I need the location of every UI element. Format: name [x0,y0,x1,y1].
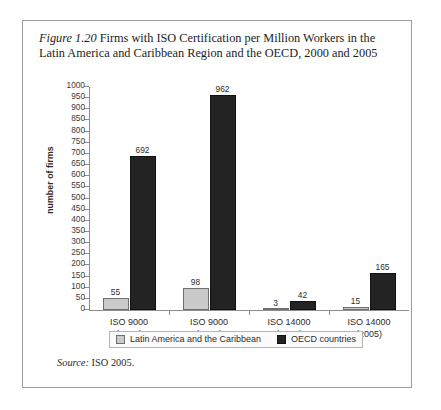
bar [130,156,156,310]
y-tick: 950 [89,97,90,98]
figure-caption: Figure 1.20 Firms with ISO Certification… [39,31,399,61]
y-tick-label: 200 [71,258,85,268]
y-tick: 900 [89,108,90,109]
y-tick: 200 [89,264,90,265]
y-tick-label: 450 [71,203,85,213]
y-tick-label: 850 [71,113,85,123]
x-tick-mark [169,311,170,315]
legend-entry: Latin America and the Caribbean [116,334,261,344]
chart-legend: Latin America and the CaribbeanOECD coun… [109,331,363,348]
y-tick-label: 100 [71,281,85,291]
y-tick-label: 50 [76,292,85,302]
y-axis-title: number of firms [45,120,55,240]
bar-chart: number of firms 050100150200250300350400… [23,83,413,333]
figure-frame: Figure 1.20 Firms with ISO Certification… [22,20,412,388]
y-tick: 650 [89,164,90,165]
y-tick-label: 550 [71,180,85,190]
bar-value-label: 962 [204,84,242,94]
y-tick-label: 750 [71,136,85,146]
x-category-name: ISO 14000 [319,316,419,328]
y-tick: 150 [89,276,90,277]
y-tick: 50 [89,298,90,299]
legend-label: Latin America and the Caribbean [130,334,261,344]
y-tick-label: 800 [71,125,85,135]
bar-value-label: 42 [284,290,322,300]
source-note: Source: ISO 2005. [57,357,134,368]
source-value: ISO 2005. [92,357,135,368]
y-tick-label: 0 [80,303,85,313]
y-axis-line [89,87,90,311]
y-tick-label: 650 [71,158,85,168]
legend-entry: OECD countries [277,334,356,344]
y-tick-label: 950 [71,91,85,101]
x-tick-mark [249,311,250,315]
y-tick-label: 1000 [67,80,85,90]
legend-swatch-icon [277,335,286,344]
y-tick: 250 [89,253,90,254]
y-tick: 450 [89,209,90,210]
y-tick-label: 700 [71,147,85,157]
y-tick-label: 400 [71,214,85,224]
y-tick-label: 350 [71,225,85,235]
bar-value-label: 165 [364,262,402,272]
y-tick: 100 [89,287,90,288]
y-tick-label: 250 [71,247,85,257]
bar [183,288,209,310]
y-tick-label: 900 [71,102,85,112]
legend-label: OECD countries [291,334,356,344]
y-tick-label: 150 [71,270,85,280]
y-tick: 700 [89,153,90,154]
y-tick-label: 300 [71,236,85,246]
y-tick: 550 [89,186,90,187]
bar [103,298,129,310]
y-tick: 750 [89,142,90,143]
y-tick: 500 [89,198,90,199]
y-tick: 1000 [89,86,90,87]
source-label: Source: [57,357,89,368]
y-tick: 300 [89,242,90,243]
x-tick-mark [329,311,330,315]
y-tick: 600 [89,175,90,176]
y-tick-label: 600 [71,169,85,179]
bar [343,307,369,310]
bar [210,95,236,310]
legend-swatch-icon [116,335,125,344]
plot-area: 0501001502002503003504004505005506006507… [89,87,409,311]
bar [370,273,396,310]
y-tick: 0 [89,309,90,310]
y-tick: 400 [89,220,90,221]
y-tick: 850 [89,119,90,120]
bar [263,308,289,310]
bar-value-label: 692 [124,145,162,155]
figure-number: Figure 1.20 [39,31,97,45]
bar [290,301,316,310]
y-tick-label: 500 [71,192,85,202]
y-tick: 800 [89,131,90,132]
y-tick: 350 [89,231,90,232]
